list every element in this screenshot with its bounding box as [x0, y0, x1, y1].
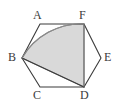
geometry-figure: A F E D C B	[0, 0, 123, 104]
vertex-label-f: F	[79, 9, 86, 21]
vertex-label-c: C	[33, 89, 41, 101]
vertex-label-b: B	[8, 51, 16, 63]
shaded-sector-region	[22, 24, 84, 87]
vertex-label-a: A	[33, 9, 42, 21]
vertex-label-e: E	[104, 51, 111, 63]
vertex-label-d: D	[80, 89, 89, 101]
